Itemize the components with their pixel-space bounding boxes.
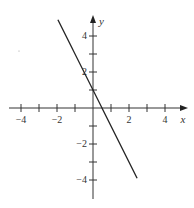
y-axis-arrow-icon bbox=[90, 15, 96, 23]
data-line bbox=[58, 20, 137, 178]
x-axis-arrow-icon bbox=[180, 105, 188, 111]
x-tick-label: 2 bbox=[127, 114, 132, 125]
y-tick-label: −4 bbox=[76, 174, 87, 185]
y-tick-label: −2 bbox=[76, 138, 87, 149]
x-axis-label: x bbox=[180, 113, 186, 125]
y-axis-label: y bbox=[98, 15, 104, 27]
chart-canvas: −4 −2 2 4 x 4 2 −2 −4 y bbox=[0, 0, 194, 208]
x-tick-label: 4 bbox=[163, 114, 168, 125]
stray-mark bbox=[18, 50, 19, 51]
x-tick-label: −2 bbox=[52, 114, 63, 125]
x-tick-label: −4 bbox=[16, 114, 27, 125]
y-tick-label: 4 bbox=[82, 30, 87, 41]
